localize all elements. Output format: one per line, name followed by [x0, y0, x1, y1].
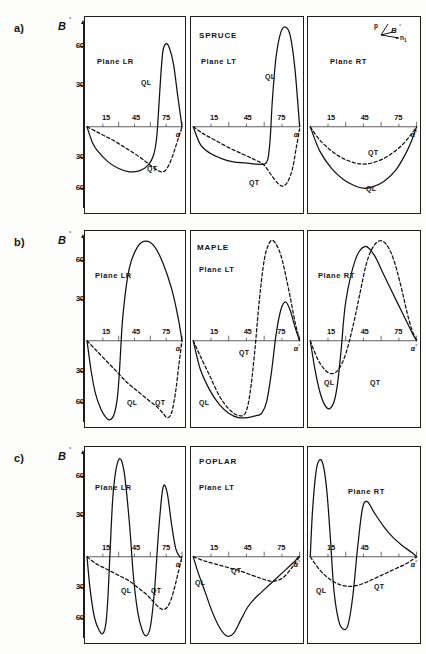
plane-label: Plane LT [199, 483, 235, 492]
curve-label-ql: QL [366, 185, 376, 192]
curve-label-qt: QT [151, 587, 161, 594]
row-label: c) [14, 452, 24, 464]
x-tick-label: 15 [327, 543, 335, 552]
y-axis-label: B [58, 450, 66, 462]
curve-label-ql: QL [121, 587, 131, 594]
x-tick-label: 45 [132, 327, 140, 336]
curve-label-qt: QT [370, 379, 380, 386]
x-tick-label: 75 [394, 327, 402, 336]
x-tick-label: 45 [132, 113, 140, 122]
x-tick-label: 75 [394, 113, 402, 122]
x-tick-label: 45 [244, 113, 252, 122]
x-tick-label: 45 [244, 327, 252, 336]
x-axis-degree-symbol: ° [415, 129, 417, 135]
plot-panel-poplar-lt: POPLARPlane LT154575α°QLQT [190, 446, 304, 644]
x-tick-label: 45 [244, 543, 252, 552]
plane-label: Plane LR [95, 271, 132, 280]
inset-label-n-sub: 1 [404, 38, 407, 43]
curve-label-ql: QL [316, 587, 326, 594]
species-title: SPRUCE [199, 31, 237, 40]
curve-label-qt: QT [231, 567, 241, 574]
row-label: a) [14, 22, 24, 34]
x-tick-label: 45 [361, 543, 369, 552]
curve-ql [193, 27, 299, 165]
y-axis-label: B [58, 20, 66, 32]
x-tick-label: 15 [210, 113, 218, 122]
curve-qt [310, 127, 416, 164]
species-title: POPLAR [199, 457, 237, 466]
curve-label-qt: QT [155, 399, 165, 406]
x-axis-label: α° [176, 343, 182, 352]
curve-label-qt: QT [374, 583, 384, 590]
inset-label-p: p [374, 22, 378, 29]
curve-label-ql: QL [199, 399, 209, 406]
x-tick-label: 45 [361, 113, 369, 122]
plane-label: Plane RT [348, 487, 385, 496]
curve-qt [87, 127, 182, 172]
x-axis-label: α° [294, 343, 300, 352]
x-tick-label: 15 [210, 327, 218, 336]
x-tick-label: 15 [102, 113, 110, 122]
x-axis-label: α° [294, 559, 300, 568]
curve-label-ql: QL [141, 79, 151, 86]
row-label: b) [14, 236, 25, 248]
y-axis-degree-symbol: ° [69, 16, 71, 22]
x-tick-label: 75 [162, 327, 170, 336]
x-axis-degree-symbol: ° [180, 343, 182, 349]
y-axis-label: B [58, 234, 66, 246]
x-axis-degree-symbol: ° [180, 129, 182, 135]
y-axis: B°60303060 [52, 446, 86, 642]
plot-panel-spruce-lr: Plane LR154575α°QLQT [84, 16, 186, 214]
curve-label-qt: QT [239, 349, 249, 356]
y-axis-degree-symbol: ° [69, 446, 71, 452]
plane-label: Plane RT [318, 271, 355, 280]
x-axis-label: α° [411, 343, 417, 352]
y-axis: B°60303060 [52, 230, 86, 426]
x-tick-label: 15 [102, 543, 110, 552]
y-axis-degree-symbol: ° [69, 230, 71, 236]
curve-label-qt: QT [249, 179, 259, 186]
species-title: MAPLE [197, 243, 229, 252]
figure-row-a: a)B°60303060Plane LR154575α°QLQTSPRUCEPl… [0, 12, 426, 220]
x-tick-label: 45 [361, 327, 369, 336]
x-tick-label: 15 [102, 327, 110, 336]
curve-qt [87, 341, 182, 418]
x-axis-label: α° [176, 129, 182, 138]
inset-label-beta: B [391, 26, 397, 35]
x-axis-label: α° [411, 129, 417, 138]
curve-ql [310, 127, 416, 189]
curve-label-qt: QT [147, 165, 157, 172]
curve-label-ql: QL [195, 579, 205, 586]
x-axis-degree-symbol: ° [298, 559, 300, 565]
x-axis-label: α° [294, 129, 300, 138]
figure-row-b: b)B°60303060Plane LR154575α°QLQTMAPLEPla… [0, 226, 426, 434]
x-axis-label: α° [176, 559, 182, 568]
x-axis-degree-symbol: ° [298, 129, 300, 135]
x-tick-label: 75 [162, 543, 170, 552]
inset-arrow-icon [396, 37, 399, 40]
x-axis-degree-symbol: ° [180, 559, 182, 565]
curve-qt [310, 241, 416, 374]
inset-label-beta-degree: ° [399, 23, 401, 29]
x-tick-label: 15 [210, 543, 218, 552]
plot-panel-maple-rt: Plane RT154575α°QLQT [307, 230, 421, 428]
x-axis-degree-symbol: ° [415, 343, 417, 349]
curve-ql [193, 556, 299, 636]
plot-panel-poplar-lr: Plane LR154575α°QLQT [84, 446, 186, 644]
y-axis: B°60303060 [52, 16, 86, 212]
x-axis-label: α° [411, 559, 417, 568]
plot-panel-spruce-lt: SPRUCEPlane LT154575α°QLQT [190, 16, 304, 214]
plot-panel-maple-lt: MAPLEPlane LT154575α°QLQT [190, 230, 304, 428]
inset-label-n1: n1 [400, 34, 407, 43]
plot-panel-poplar-rt: Plane RT1545α°QLQT [307, 446, 421, 644]
x-tick-label: 75 [277, 113, 285, 122]
curve-label-qt: QT [368, 149, 378, 156]
curve-label-ql: QL [127, 399, 137, 406]
curve-qt [310, 557, 416, 587]
curve-qt [193, 557, 299, 581]
curve-qt [193, 127, 299, 186]
x-tick-label: 15 [327, 113, 335, 122]
x-tick-label: 15 [327, 327, 335, 336]
plane-label: Plane RT [330, 57, 367, 66]
figure-row-c: c)B°60303060Plane LR154575α°QLQTPOPLARPl… [0, 442, 426, 650]
